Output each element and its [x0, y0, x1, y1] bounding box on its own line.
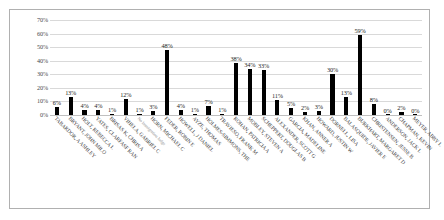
- bar[interactable]: [124, 99, 128, 115]
- bar[interactable]: [344, 97, 348, 115]
- bar-slot[interactable]: 38%: [229, 20, 243, 115]
- bar-value-label: 12%: [120, 91, 131, 98]
- y-axis-tick-label: 60%: [18, 31, 48, 37]
- bar-slot[interactable]: 7%: [202, 20, 216, 115]
- bar-value-label: 13%: [341, 89, 352, 96]
- bar-slot[interactable]: 12%: [119, 20, 133, 115]
- bar-value-label: 38%: [231, 55, 242, 62]
- bar-value-label: 33%: [258, 62, 269, 69]
- bar-value-label: 3%: [315, 103, 323, 110]
- bar-slot[interactable]: 3%: [312, 20, 326, 115]
- bar[interactable]: [275, 100, 279, 115]
- bar-value-label: 4%: [80, 102, 88, 109]
- bar[interactable]: [165, 50, 169, 115]
- y-axis-tick-label: 30%: [18, 71, 48, 77]
- bar-value-label: 4%: [94, 102, 102, 109]
- bar-slot[interactable]: 4%: [174, 20, 188, 115]
- plot-area: 6%13%4%4%1%12%1%3%48%4%1%7%1%38%34%33%11…: [50, 20, 422, 115]
- bar-value-label: 13%: [65, 89, 76, 96]
- y-axis-tick-label: 40%: [18, 58, 48, 64]
- bar-value-label: 11%: [272, 92, 283, 99]
- bar[interactable]: [55, 107, 59, 115]
- bar-slot[interactable]: 34%: [243, 20, 257, 115]
- bar-slot[interactable]: 1%: [215, 20, 229, 115]
- bar[interactable]: [69, 97, 73, 115]
- bar-slot[interactable]: 48%: [160, 20, 174, 115]
- bar-slot[interactable]: 59%: [353, 20, 367, 115]
- bar-slot[interactable]: 0%: [408, 20, 422, 115]
- y-axis-tick-label: 20%: [18, 85, 48, 91]
- bar-value-label: 4%: [177, 102, 185, 109]
- y-axis-tick-label: 0%: [18, 112, 48, 118]
- bar-slot[interactable]: 3%: [146, 20, 160, 115]
- bar-slot[interactable]: 13%: [64, 20, 78, 115]
- bar-slot[interactable]: 6%: [50, 20, 64, 115]
- bar-slot[interactable]: 13%: [339, 20, 353, 115]
- bar-slot[interactable]: 30%: [326, 20, 340, 115]
- bar-value-label: 48%: [162, 42, 173, 49]
- bar-value-label: 5%: [287, 100, 295, 107]
- bar-slot[interactable]: 1%: [105, 20, 119, 115]
- bar-slot[interactable]: 0%: [381, 20, 395, 115]
- bar-value-label: 0%: [411, 107, 419, 114]
- bar-value-label: 7%: [204, 98, 212, 105]
- chart-plot-wrapper: 70%60%50%40%30%20%10%0% 6%13%4%4%1%12%1%…: [10, 10, 431, 210]
- bar-value-label: 8%: [370, 96, 378, 103]
- bar-slot[interactable]: 4%: [78, 20, 92, 115]
- y-axis-tick-label: 50%: [18, 44, 48, 50]
- bar[interactable]: [262, 70, 266, 115]
- bar-slot[interactable]: 8%: [367, 20, 381, 115]
- bar[interactable]: [358, 35, 362, 115]
- bar-value-label: 1%: [108, 106, 116, 113]
- bar-value-label: 1%: [136, 106, 144, 113]
- bar-value-label: 1%: [191, 106, 199, 113]
- bar-value-label: 3%: [149, 103, 157, 110]
- bar-slot[interactable]: 5%: [284, 20, 298, 115]
- bar-value-label: 59%: [355, 27, 366, 34]
- bar-value-label: 1%: [218, 106, 226, 113]
- bar-value-label: 0%: [384, 107, 392, 114]
- bar-slot[interactable]: 4%: [91, 20, 105, 115]
- bar-value-label: 6%: [53, 99, 61, 106]
- bar[interactable]: [372, 104, 376, 115]
- bar-series: 6%13%4%4%1%12%1%3%48%4%1%7%1%38%34%33%11…: [50, 20, 422, 115]
- bar[interactable]: [248, 69, 252, 115]
- bar-slot[interactable]: 33%: [257, 20, 271, 115]
- bar-slot[interactable]: 2%: [395, 20, 409, 115]
- bar[interactable]: [206, 106, 210, 116]
- bar-value-label: 2%: [397, 104, 405, 111]
- bar-slot[interactable]: 1%: [188, 20, 202, 115]
- chart-frame: 70%60%50%40%30%20%10%0% 6%13%4%4%1%12%1%…: [9, 9, 430, 209]
- y-axis-tick-label: 10%: [18, 98, 48, 104]
- bar-slot[interactable]: 1%: [133, 20, 147, 115]
- bar-slot[interactable]: 2%: [298, 20, 312, 115]
- bar-value-label: 34%: [244, 61, 255, 68]
- bar[interactable]: [330, 74, 334, 115]
- y-axis-tick-label: 70%: [18, 17, 48, 23]
- bar-slot[interactable]: 11%: [271, 20, 285, 115]
- bar[interactable]: [234, 63, 238, 115]
- bar-value-label: 2%: [301, 104, 309, 111]
- x-axis: TABARDOR, A ASHLEYBRYANT, JOHN MILOHOLT,…: [50, 116, 422, 206]
- y-axis: 70%60%50%40%30%20%10%0%: [18, 20, 48, 115]
- bar-value-label: 30%: [327, 66, 338, 73]
